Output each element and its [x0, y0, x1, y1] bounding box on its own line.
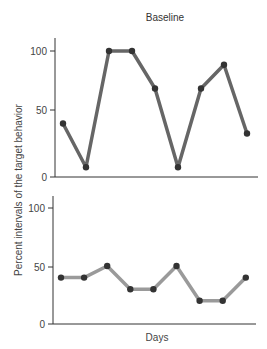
y-tick-50: 50 [34, 262, 46, 273]
data-point [127, 286, 133, 292]
y-axis-label: Percent intervals of the target behavior [13, 103, 24, 275]
x-axis-label: Days [146, 332, 169, 343]
data-line [63, 51, 247, 167]
data-point [58, 274, 64, 280]
y-tick-0: 0 [39, 319, 45, 330]
data-point [150, 286, 156, 292]
second-series [58, 263, 249, 304]
data-point [243, 274, 249, 280]
data-point [83, 164, 89, 170]
data-point [129, 48, 135, 54]
data-point [60, 120, 66, 126]
data-point [175, 164, 181, 170]
data-point [81, 274, 87, 280]
data-point [152, 85, 158, 91]
y-tick-0: 0 [41, 172, 47, 183]
data-point [173, 263, 179, 269]
data-point [196, 298, 202, 304]
y-tick-50: 50 [36, 105, 48, 116]
data-point [221, 62, 227, 68]
second-panel: 100 50 0 Days [28, 196, 256, 343]
data-point [244, 130, 250, 136]
y-tick-100: 100 [28, 203, 45, 214]
chart-title: Baseline [146, 12, 185, 23]
baseline-panel: 100 50 0 [30, 38, 258, 183]
figure: Baseline Percent intervals of the target… [0, 0, 267, 349]
data-point [104, 263, 110, 269]
data-point [198, 85, 204, 91]
y-tick-100: 100 [30, 46, 47, 57]
data-point [106, 48, 112, 54]
data-line [61, 266, 246, 301]
data-point [220, 298, 226, 304]
baseline-series [60, 48, 250, 171]
